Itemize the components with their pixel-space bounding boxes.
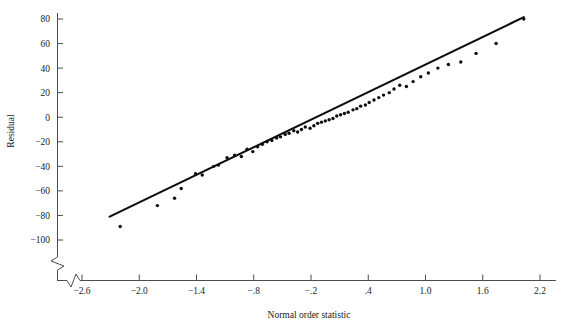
data-point: [427, 71, 430, 74]
data-point: [284, 133, 287, 136]
data-point: [388, 91, 391, 94]
y-tick-label: −60: [35, 186, 50, 196]
x-axis: −2.6−2.0−1.4−.8−.2.41.01.62.2 Normal ord…: [58, 274, 557, 320]
y-tick-marks: [58, 19, 64, 240]
data-point: [419, 75, 422, 78]
data-point: [240, 155, 243, 158]
data-point: [173, 197, 176, 200]
data-point: [377, 96, 380, 99]
data-point: [324, 119, 327, 122]
data-point: [355, 107, 358, 110]
data-point: [327, 118, 330, 121]
data-point: [392, 87, 395, 90]
y-tick-label: −80: [35, 211, 50, 221]
data-point: [251, 150, 254, 153]
y-tick-label: 20: [41, 88, 51, 98]
data-point: [436, 66, 439, 69]
data-point: [256, 145, 259, 148]
x-tick-label: −2.6: [73, 286, 90, 296]
data-point: [411, 80, 414, 83]
y-tick-label: 0: [45, 113, 50, 123]
y-tick-label: 60: [41, 39, 51, 49]
x-tick-label: 1.0: [420, 286, 432, 296]
chart-canvas: 806040200−20−40−60−80−100 Residual −2.6−…: [0, 0, 561, 331]
data-point: [364, 103, 367, 106]
fit-reference-line: [110, 17, 524, 217]
x-tick-label: −.8: [248, 286, 261, 296]
data-point: [201, 173, 204, 176]
normal-probability-plot: 806040200−20−40−60−80−100 Residual −2.6−…: [0, 0, 561, 331]
x-tick-label: 1.6: [477, 286, 489, 296]
x-tick-label: .4: [365, 286, 372, 296]
x-tick-label: 2.2: [534, 286, 546, 296]
data-point: [320, 120, 323, 123]
data-point: [180, 187, 183, 190]
data-point: [316, 122, 319, 125]
x-tick-labels: −2.6−2.0−1.4−.8−.2.41.01.62.2: [73, 286, 546, 296]
y-axis: 806040200−20−40−60−80−100 Residual: [6, 13, 64, 281]
data-point: [300, 128, 303, 131]
x-tick-label: −.2: [305, 286, 318, 296]
y-tick-labels: 806040200−20−40−60−80−100: [30, 14, 50, 245]
data-point: [287, 131, 290, 134]
y-axis-break-icon: [51, 255, 64, 281]
data-point: [292, 129, 295, 132]
data-point: [372, 98, 375, 101]
data-point: [343, 112, 346, 115]
data-point: [275, 136, 278, 139]
data-point: [245, 147, 248, 150]
data-point: [308, 127, 311, 130]
data-point: [296, 130, 299, 133]
data-point: [347, 111, 350, 114]
data-point: [212, 165, 215, 168]
y-tick-label: −20: [35, 137, 50, 147]
data-point: [459, 60, 462, 63]
data-point: [265, 140, 268, 143]
data-point: [225, 156, 228, 159]
data-point: [398, 84, 401, 87]
y-tick-label: −100: [30, 235, 50, 245]
x-tick-marks: [82, 275, 540, 281]
x-axis-title: Normal order statistic: [268, 310, 351, 320]
data-point: [359, 104, 362, 107]
x-tick-label: −2.0: [131, 286, 148, 296]
x-tick-label: −1.4: [188, 286, 205, 296]
data-point: [217, 163, 220, 166]
y-tick-label: −40: [35, 162, 50, 172]
scatter-points: [118, 17, 525, 228]
data-point: [494, 42, 497, 45]
data-point: [474, 52, 477, 55]
data-point: [335, 114, 338, 117]
data-point: [270, 139, 273, 142]
data-point: [405, 85, 408, 88]
y-axis-title: Residual: [6, 114, 16, 148]
data-point: [351, 108, 354, 111]
y-tick-label: 40: [41, 64, 51, 74]
data-point: [339, 113, 342, 116]
data-point: [156, 204, 159, 207]
reference-line: [110, 17, 524, 217]
data-point: [368, 101, 371, 104]
data-point: [447, 63, 450, 66]
data-point: [382, 93, 385, 96]
y-tick-label: 80: [41, 14, 51, 24]
data-point: [312, 124, 315, 127]
data-point: [304, 125, 307, 128]
data-point: [331, 117, 334, 120]
data-point: [118, 225, 121, 228]
data-point: [233, 154, 236, 157]
data-point: [194, 172, 197, 175]
data-point: [279, 135, 282, 138]
data-point: [522, 17, 525, 20]
data-point: [261, 143, 264, 146]
